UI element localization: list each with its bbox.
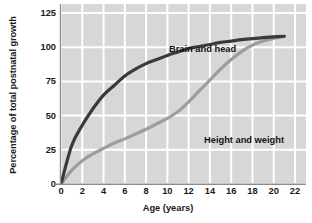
y-tick-100: 100 bbox=[26, 42, 56, 52]
series-label-height-and-weight: Height and weight bbox=[204, 135, 284, 145]
x-axis-label: Age (years) bbox=[31, 203, 305, 213]
x-tick-20: 20 bbox=[263, 186, 285, 196]
x-tick-0: 0 bbox=[50, 186, 72, 196]
growth-percentage-line-chart: Percentage of total postnatal growth 025… bbox=[0, 0, 312, 223]
x-tick-18: 18 bbox=[241, 186, 263, 196]
y-tick-50: 50 bbox=[26, 111, 56, 121]
y-tick-75: 75 bbox=[26, 76, 56, 86]
x-tick-4: 4 bbox=[93, 186, 115, 196]
x-tick-14: 14 bbox=[199, 186, 221, 196]
y-axis-label: Percentage of total postnatal growth bbox=[0, 0, 26, 190]
y-axis-label-text: Percentage of total postnatal growth bbox=[8, 16, 18, 174]
plot-canvas bbox=[61, 4, 306, 184]
x-tick-2: 2 bbox=[71, 186, 93, 196]
curve-height-and-weight bbox=[61, 36, 284, 184]
x-tick-10: 10 bbox=[156, 186, 178, 196]
x-tick-6: 6 bbox=[114, 186, 136, 196]
x-tick-12: 12 bbox=[178, 186, 200, 196]
y-tick-25: 25 bbox=[26, 145, 56, 155]
gridlines bbox=[61, 4, 306, 184]
y-tick-125: 125 bbox=[26, 8, 56, 18]
curve-brain-and-head bbox=[61, 36, 284, 184]
plot-area: Brain and head Height and weight bbox=[61, 4, 306, 184]
data-curves bbox=[61, 36, 284, 184]
x-tick-16: 16 bbox=[220, 186, 242, 196]
series-label-brain-and-head: Brain and head bbox=[169, 44, 236, 54]
x-tick-8: 8 bbox=[135, 186, 157, 196]
x-tick-22: 22 bbox=[284, 186, 306, 196]
